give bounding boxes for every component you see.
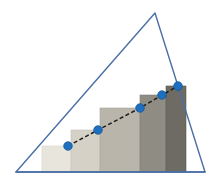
bar-3: [100, 108, 140, 172]
diagram-canvas: Staircase approximation under a triangle: [0, 0, 222, 187]
figure-root: Staircase approximation under a triangle: [0, 0, 222, 187]
point-2-marker: [94, 126, 103, 135]
point-5-marker: [174, 82, 183, 91]
point-3-marker: [136, 104, 145, 113]
point-4-marker: [158, 91, 167, 100]
bar-5: [166, 86, 186, 172]
point-1-marker: [64, 142, 73, 151]
